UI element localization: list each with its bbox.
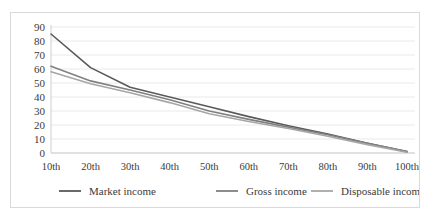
x-axis-tick-label: 80th [319,161,338,172]
x-axis-tick-label: 50th [200,161,219,172]
axis-lines-group [51,25,415,153]
y-axis-tick-label: 0 [40,147,46,159]
x-axis-tick-label: 90th [358,161,377,172]
plot-area: 0102030405060708090 10th20th30th40th50th… [11,13,419,207]
y-axis-tick-label: 10 [34,133,46,145]
y-axis-tick-label: 90 [34,21,46,33]
y-axis-tick-label: 70 [34,49,46,61]
y-axis-tick-label: 80 [34,35,46,47]
x-axis-tick-label: 30th [121,161,140,172]
y-axis-tick-label: 40 [34,91,46,103]
legend-label-market-income: Market income [89,185,156,197]
x-axis-tick-label: 100th [395,161,419,172]
legend-label-gross-income: Gross income [246,185,307,197]
gridlines-group [51,27,415,153]
legend-label-disposable-income: Disposable income [341,185,419,197]
line-chart: 0102030405060708090 10th20th30th40th50th… [11,13,419,207]
x-axis-tick-label: 70th [279,161,298,172]
y-axis-tick-label: 60 [34,63,46,75]
x-axis-tick-label: 20th [81,161,100,172]
chart-frame: 0102030405060708090 10th20th30th40th50th… [10,12,420,208]
x-axis-tick-labels: 10th20th30th40th50th60th70th80th90th100t… [42,161,419,172]
data-line-market-income [51,34,407,152]
data-series-group [51,34,407,152]
chart-legend: Market incomeGross incomeDisposable inco… [59,185,419,197]
x-axis-tick-label: 40th [160,161,179,172]
y-axis-tick-labels: 0102030405060708090 [34,21,46,159]
x-axis-tick-label: 60th [239,161,258,172]
y-axis-tick-label: 30 [34,105,46,117]
x-axis-tick-label: 10th [42,161,61,172]
y-axis-tick-label: 20 [34,119,46,131]
y-axis-tick-label: 50 [34,77,46,89]
